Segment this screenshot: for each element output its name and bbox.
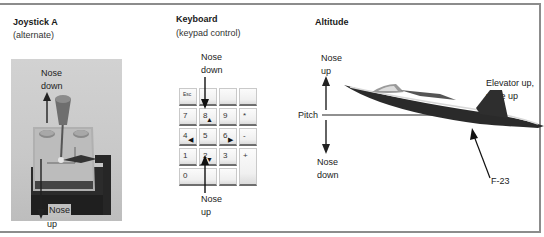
key-decimal (219, 168, 237, 186)
keyboard-subtitle: (keypad control) (176, 28, 241, 38)
key-multiply: * (239, 108, 257, 126)
joystick-subtitle: (alternate) (13, 30, 54, 40)
keyboard-nose-up-label: Nose up (201, 193, 222, 219)
joystick-nose-up-label-line2: up (47, 218, 57, 231)
arrow-up-icon (322, 76, 330, 86)
keyboard-arrows (195, 75, 215, 195)
altitude-diagram (280, 60, 544, 190)
pointer-arrow-icon (470, 128, 478, 140)
key-9: 9 (219, 108, 237, 126)
arrow-up-icon (201, 155, 209, 165)
joystick-nose-down-label: Nose down (41, 67, 63, 93)
altitude-title: Altitude (315, 17, 349, 27)
left-marker-icon: ◀ (188, 136, 193, 144)
key-plus: + (239, 148, 257, 186)
keyboard-title: Keyboard (176, 14, 218, 24)
numeric-keypad: Esc 7 8▲ 9 * 4◀ 5 6▶ - 1 2▼ 3 + 0 (179, 88, 255, 188)
joystick-photo (11, 59, 122, 221)
key-6: 6▶ (219, 128, 237, 146)
arrow-down-icon (201, 99, 209, 109)
keyboard-nose-down-label: Nose down (201, 51, 223, 77)
joystick-title: Joystick A (13, 17, 58, 27)
right-marker-icon: ▶ (228, 136, 233, 144)
joystick-illustration (11, 59, 122, 221)
key-blank-2 (219, 88, 237, 106)
aircraft-icon (344, 84, 544, 128)
key-3: 3 (219, 148, 237, 166)
arrow-down-icon (322, 144, 330, 154)
key-blank-3 (239, 88, 257, 106)
key-minus: - (239, 128, 257, 146)
joystick-nose-up-label-line1: Nose (48, 204, 71, 217)
